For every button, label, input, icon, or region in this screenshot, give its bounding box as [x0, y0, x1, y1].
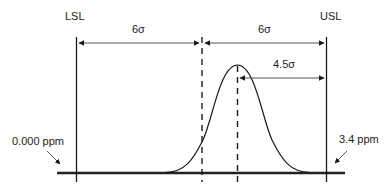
- six-sigma-diagram: LSL USL 6σ 6σ 4.5σ 0.000 ppm 3.4 ppm: [0, 0, 391, 192]
- left-tail-pointer-arrow: [47, 151, 60, 164]
- usl-label: USL: [320, 10, 341, 22]
- right-six-sigma-label: 6σ: [258, 23, 271, 35]
- shift-sigma-label: 4.5σ: [273, 58, 295, 70]
- right-tail-ppm-label: 3.4 ppm: [339, 133, 379, 145]
- left-tail-ppm-label: 0.000 ppm: [12, 135, 64, 147]
- lsl-label: LSL: [65, 10, 85, 22]
- left-six-sigma-label: 6σ: [132, 23, 145, 35]
- right-tail-pointer-arrow: [335, 151, 347, 163]
